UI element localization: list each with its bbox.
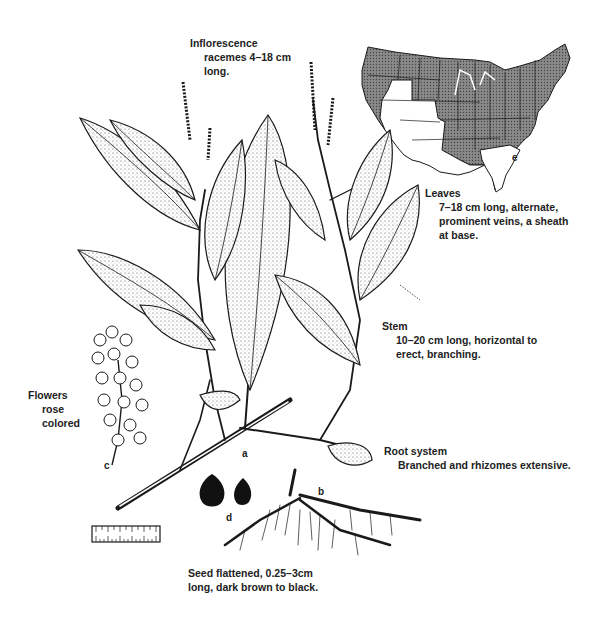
part-letter-c: c (104, 460, 110, 471)
flowers-title: Flowers (28, 388, 80, 402)
root-system (225, 470, 420, 555)
leaves-body-2: prominent veins, a sheath (425, 214, 569, 228)
seed-annotation: Seed flattened, 0.25–3cm long, dark brow… (188, 566, 318, 594)
seed-line-2: long, dark brown to black. (188, 580, 318, 594)
part-letter-b: b (318, 486, 324, 497)
leaves-annotation: Leaves 7–18 cm long, alternate, prominen… (425, 186, 569, 242)
flower-cluster (92, 326, 148, 465)
inflorescence-body-1: racemes 4–18 cm (190, 50, 291, 64)
inflorescence-title: Inflorescence (190, 36, 291, 50)
root-system-body-1: Branched and rhizomes extensive. (384, 458, 571, 472)
inflorescence-body-2: long. (190, 64, 291, 78)
stem-body-1: 10–20 cm long, horizontal to (382, 333, 537, 347)
part-letter-a: a (242, 448, 248, 459)
distribution-map (362, 44, 570, 192)
stem-body-2: erect, branching. (382, 347, 537, 361)
seed-line-1: Seed flattened, 0.25–3cm (188, 566, 318, 580)
stem-title: Stem (382, 319, 537, 333)
root-system-annotation: Root system Branched and rhizomes extens… (384, 444, 571, 472)
leaves-body-3: at base. (425, 228, 569, 242)
part-letter-e: e (512, 152, 518, 163)
stem-annotation: Stem 10–20 cm long, horizontal to erect,… (382, 319, 537, 361)
seeds (200, 474, 252, 507)
part-letter-d: d (226, 512, 232, 523)
leaves-body-1: 7–18 cm long, alternate, (425, 200, 569, 214)
scale-bar (92, 526, 160, 542)
inflorescence-annotation: Inflorescence racemes 4–18 cm long. (190, 36, 291, 78)
plant-illustration (0, 0, 600, 618)
root-system-title: Root system (384, 444, 571, 458)
leaves (78, 115, 419, 465)
flowers-body-1: rose (28, 402, 80, 416)
leaves-title: Leaves (425, 186, 569, 200)
flowers-annotation: Flowers rose colored (28, 388, 80, 430)
flowers-body-2: colored (28, 416, 80, 430)
